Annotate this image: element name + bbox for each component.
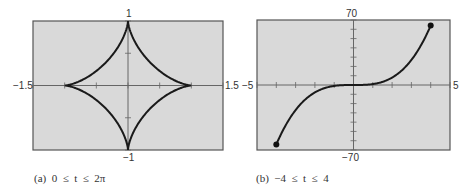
plot-a-ymin-label: −1 xyxy=(123,152,134,163)
figure-canvas xyxy=(0,0,467,192)
plot-b xyxy=(257,20,450,150)
endpoint-dot xyxy=(428,23,434,29)
endpoint-dot xyxy=(273,141,279,147)
plot-b-xmax-label: 5 xyxy=(453,80,459,91)
plot-a-xmin-label: −1.5 xyxy=(13,80,33,91)
plot-a xyxy=(33,21,223,150)
plot-a-xmax-label: 1.5 xyxy=(225,80,239,91)
plot-b-caption: (b) −4 ≤ t ≤ 4 xyxy=(256,172,329,184)
plot-a-caption: (a) 0 ≤ t ≤ 2π xyxy=(34,172,105,184)
plot-a-ymax-label: 1 xyxy=(126,8,132,19)
plot-b-xmin-label: −5 xyxy=(242,80,253,91)
plot-b-ymax-label: 70 xyxy=(346,8,357,19)
plot-b-ymin-label: −70 xyxy=(342,152,359,163)
